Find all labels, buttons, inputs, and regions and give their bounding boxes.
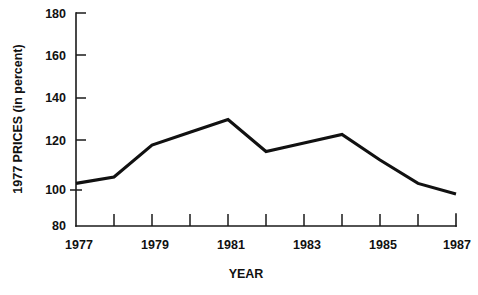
x-tick-label-1983: 1983: [293, 238, 321, 252]
y-tick-label-120: 120: [45, 134, 66, 148]
x-tick-label-1981: 1981: [217, 238, 245, 252]
y-axis-label: 1977 PRICES (in percent): [11, 44, 25, 193]
line-chart-plot: 1977 PRICES (in percent) 180 160 140 120…: [0, 0, 478, 295]
x-tick-label-1977: 1977: [65, 238, 93, 252]
data-series-line: [76, 120, 456, 195]
y-tick-label-160: 160: [45, 49, 66, 63]
x-tick-label-1987: 1987: [443, 238, 471, 252]
y-tick-label-80: 80: [52, 219, 66, 233]
chart-container: 1977 PRICES (in percent) 180 160 140 120…: [0, 0, 478, 295]
y-tick-label-140: 140: [45, 91, 66, 105]
y-tick-label-180: 180: [45, 7, 66, 21]
x-tick-label-1979: 1979: [141, 238, 169, 252]
y-tick-label-100: 100: [45, 183, 66, 197]
x-tick-label-1985: 1985: [369, 238, 397, 252]
x-axis-label: YEAR: [229, 267, 264, 281]
